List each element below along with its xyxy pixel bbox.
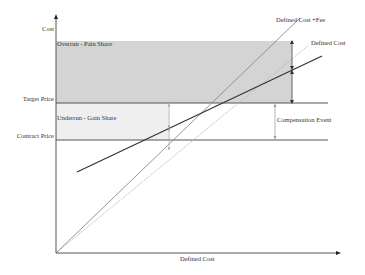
underrun-region bbox=[56, 103, 170, 140]
overrun-label: Overrun - Pain Share bbox=[57, 41, 112, 48]
contract-price-label: Contract Price bbox=[17, 133, 54, 140]
compensation-event-label: Compensation Event bbox=[277, 117, 331, 124]
defined-cost-plus-fee-label: Defined Cost +Fee bbox=[276, 17, 325, 24]
arrowhead-icon bbox=[168, 148, 170, 151]
arrowhead-icon bbox=[274, 104, 277, 107]
arrowhead-icon bbox=[274, 136, 277, 139]
underrun-label: Underrun - Gain Share bbox=[57, 115, 116, 122]
x-axis-label: Defined Cost bbox=[180, 256, 214, 263]
defined-cost-line-label: Defined Cost bbox=[311, 40, 345, 47]
overrun-region bbox=[56, 41, 292, 103]
target-price-label: Target Price bbox=[23, 96, 54, 103]
y-axis-label: Cost bbox=[42, 26, 54, 33]
x-axis-arrow-icon bbox=[336, 251, 341, 255]
y-axis-arrow-icon bbox=[54, 14, 58, 19]
